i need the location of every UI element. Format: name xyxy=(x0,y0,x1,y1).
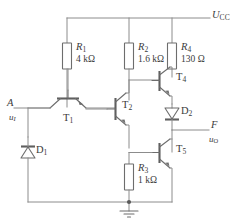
transistor-t2-label: T2 xyxy=(122,100,132,111)
resistor-r4-index: 4 xyxy=(187,45,191,54)
transistor-t1 xyxy=(28,69,115,108)
transistor-t4-index: 4 xyxy=(182,75,186,84)
input-signal-index: I xyxy=(14,115,16,122)
supply-label: UCC xyxy=(212,10,230,21)
resistor-r3-index: 3 xyxy=(144,166,148,175)
resistor-r4-value: 130 Ω xyxy=(181,55,205,65)
circuit-diagram: UCC R1 4 kΩ R2 1.6 kΩ R4 130 Ω R3 1 kΩ T… xyxy=(0,0,234,223)
transistor-t5-index: 5 xyxy=(182,147,186,156)
transistor-t2 xyxy=(107,80,129,148)
circuit-schematic-canvas xyxy=(0,0,234,223)
resistor-r4-name: R4 xyxy=(181,42,191,53)
diode-d2-symbol: D xyxy=(181,105,189,116)
diode-d2 xyxy=(165,104,179,130)
transistor-t5 xyxy=(129,139,172,202)
resistor-r1-index: 1 xyxy=(82,45,86,54)
resistor-r3-value: 1 kΩ xyxy=(138,176,157,186)
input-signal-label: uI xyxy=(9,113,16,123)
resistor-r3-name: R3 xyxy=(138,163,148,174)
transistor-t2-index: 2 xyxy=(128,103,132,112)
supply-label-main: U xyxy=(212,9,220,20)
transistor-t1-index: 1 xyxy=(69,116,73,125)
diode-d1-label: D1 xyxy=(36,145,47,156)
resistor-r1-value: 4 kΩ xyxy=(76,55,95,65)
diode-d2-label: D2 xyxy=(181,106,192,117)
output-signal-label: uO xyxy=(209,135,218,145)
diode-d2-index: 2 xyxy=(189,109,193,118)
diode-d1-symbol: D xyxy=(36,144,44,155)
resistor-r1 xyxy=(63,43,72,107)
input-terminal-label: A xyxy=(7,98,13,109)
junction-dot-ground xyxy=(127,200,131,204)
supply-label-sub: CC xyxy=(220,13,230,22)
transistor-t4-label: T4 xyxy=(176,72,186,83)
output-terminal-label: F xyxy=(211,120,217,131)
resistor-r2-index: 2 xyxy=(144,45,148,54)
transistor-t5-label: T5 xyxy=(176,144,186,155)
resistor-r3 xyxy=(125,153,134,203)
resistor-r1-name: R1 xyxy=(76,42,86,53)
output-signal-index: O xyxy=(214,137,219,144)
diode-d1 xyxy=(21,108,35,202)
resistor-r2-value: 1.6 kΩ xyxy=(138,55,164,65)
ground-symbol xyxy=(120,202,138,217)
transistor-t4 xyxy=(152,67,172,104)
transistor-t1-label: T1 xyxy=(63,113,73,124)
resistor-r2-name: R2 xyxy=(138,42,148,53)
diode-d1-index: 1 xyxy=(44,148,48,157)
